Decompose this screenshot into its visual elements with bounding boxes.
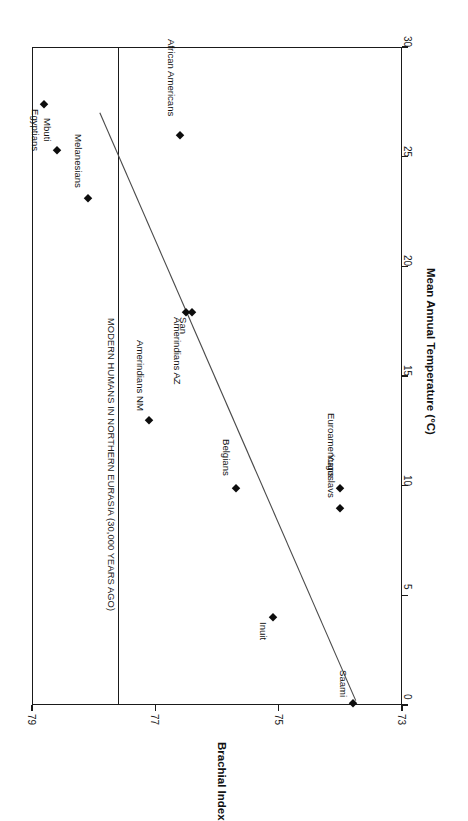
brachial-index-axis-title: Brachial Index <box>216 742 228 821</box>
brachial-index-tick-label: 75 <box>273 714 284 725</box>
temperature-tick-label: 0 <box>402 694 413 700</box>
data-point-label: Belgians <box>221 439 232 476</box>
brachial-index-tick <box>401 705 402 711</box>
temperature-tick-label: 20 <box>402 255 413 266</box>
temperature-tick <box>402 595 408 596</box>
temperature-axis-title: Mean Annual Temperature (°C) <box>425 268 437 435</box>
brachial-index-tick <box>31 705 32 711</box>
data-point-label: San <box>178 317 189 334</box>
temperature-tick-label: 5 <box>402 584 413 590</box>
data-point-label: Amerindians NM <box>135 340 146 411</box>
temperature-tick-label: 25 <box>402 146 413 157</box>
temperature-tick-label: 30 <box>402 36 413 47</box>
data-point-label: Egyptians <box>30 109 41 151</box>
brachial-index-tick-label: 73 <box>396 714 407 725</box>
temperature-tick-label: 10 <box>402 475 413 486</box>
data-point-label: African Americans <box>166 39 177 116</box>
data-point-label: Saami <box>338 670 349 697</box>
brachial-index-tick <box>155 705 156 711</box>
data-point-label: Mbuti <box>42 118 53 141</box>
data-point-label: Inuit <box>258 622 269 640</box>
data-point-label: Melanesians <box>73 134 84 188</box>
data-point-label: Yugoslavs <box>326 454 337 498</box>
brachial-index-tick-label: 79 <box>26 714 37 725</box>
temperature-tick-label: 15 <box>402 365 413 376</box>
temperature-tick <box>402 704 408 705</box>
brachial-index-tick <box>278 705 279 711</box>
brachial-index-tick-label: 77 <box>149 714 160 725</box>
